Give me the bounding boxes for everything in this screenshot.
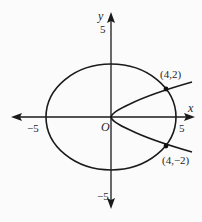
coordinate-diagram: y 5 −5 x 5 −5 O (4,2) (4,−2) [0, 0, 202, 222]
origin-label: O [101, 120, 110, 134]
x-tick-negative-label: −5 [27, 122, 39, 134]
y-tick-negative-label: −5 [97, 190, 109, 202]
y-tick-positive-label: 5 [100, 23, 106, 35]
x-tick-positive-label: 5 [179, 122, 185, 134]
point-label-upper: (4,2) [160, 68, 181, 81]
point-label-lower: (4,−2) [162, 154, 190, 167]
y-axis-label: y [97, 9, 104, 23]
intersection-point-upper [164, 87, 169, 92]
x-axis-label: x [187, 101, 194, 115]
intersection-point-lower [164, 144, 169, 149]
y-axis [107, 12, 115, 209]
